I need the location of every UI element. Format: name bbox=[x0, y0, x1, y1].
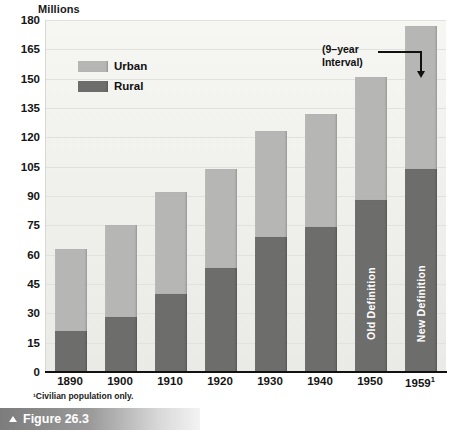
y-axis-tick-75: 75 bbox=[6, 219, 40, 231]
legend-item-urban: Urban bbox=[78, 58, 183, 74]
bar-1940[interactable] bbox=[305, 114, 337, 372]
y-axis-tick-105: 105 bbox=[6, 161, 40, 173]
x-axis-tick-1910: 1910 bbox=[157, 375, 183, 387]
interval-annotation-line1: (9–year bbox=[322, 43, 392, 56]
x-axis-tick-labels: 189019001910192019301940195019591 bbox=[45, 375, 445, 391]
annotation-arrow-stem bbox=[420, 51, 422, 73]
bar-segment-urban-1920[interactable] bbox=[205, 169, 237, 269]
bar-vertical-label-wrap-1959: New Definition bbox=[405, 244, 437, 364]
bar-segment-rural-1959[interactable]: New Definition bbox=[405, 169, 437, 372]
bar-segment-urban-1900[interactable] bbox=[105, 225, 137, 317]
legend-swatch-rural bbox=[78, 81, 108, 92]
annotation-leader-line bbox=[378, 51, 421, 53]
legend-item-rural: Rural bbox=[78, 78, 183, 94]
bar-1930[interactable] bbox=[255, 131, 287, 372]
y-axis-tick-90: 90 bbox=[6, 190, 40, 202]
x-axis-tick-1950: 1950 bbox=[357, 375, 383, 387]
bar-1900[interactable] bbox=[105, 225, 137, 372]
bar-segment-rural-1890[interactable] bbox=[55, 331, 87, 372]
x-axis-tick-superscript: 1 bbox=[431, 375, 435, 384]
figure-caption-text: Figure 26.3 bbox=[23, 412, 89, 426]
y-axis-tick-135: 135 bbox=[6, 102, 40, 114]
interval-annotation: (9–year Interval) bbox=[322, 43, 392, 69]
x-axis-tick-1930: 1930 bbox=[257, 375, 283, 387]
y-axis-tick-15: 15 bbox=[6, 337, 40, 349]
bar-segment-urban-1950[interactable] bbox=[355, 77, 387, 200]
y-axis-tick-165: 165 bbox=[6, 43, 40, 55]
bar-segment-urban-1959[interactable] bbox=[405, 26, 437, 169]
bar-1910[interactable] bbox=[155, 192, 187, 372]
bar-vertical-label-wrap-1950: Old Definition bbox=[355, 244, 387, 364]
bar-segment-rural-1920[interactable] bbox=[205, 268, 237, 372]
bar-segment-rural-1900[interactable] bbox=[105, 317, 137, 372]
y-axis-tick-150: 150 bbox=[6, 73, 40, 85]
interval-annotation-line2: Interval) bbox=[322, 56, 392, 69]
bar-segment-rural-1930[interactable] bbox=[255, 237, 287, 372]
caption-triangle-icon bbox=[9, 416, 17, 422]
y-axis-tick-120: 120 bbox=[6, 131, 40, 143]
y-axis-tick-45: 45 bbox=[6, 278, 40, 290]
y-axis-title: Millions bbox=[38, 3, 80, 15]
x-axis-tick-1890: 1890 bbox=[57, 375, 83, 387]
bar-vertical-label-1959: New Definition bbox=[415, 265, 427, 342]
x-axis-tick-1959: 19591 bbox=[405, 375, 435, 389]
x-axis-tick-1920: 1920 bbox=[207, 375, 233, 387]
y-axis-tick-180: 180 bbox=[6, 14, 40, 26]
annotation-arrow-head-icon bbox=[417, 71, 425, 78]
x-axis-line bbox=[45, 371, 447, 373]
bar-vertical-label-1950: Old Definition bbox=[365, 267, 377, 340]
bar-segment-urban-1890[interactable] bbox=[55, 249, 87, 331]
legend-swatch-urban bbox=[78, 61, 108, 72]
bar-segment-urban-1930[interactable] bbox=[255, 131, 287, 237]
y-axis-tick-60: 60 bbox=[6, 249, 40, 261]
legend-label-rural: Rural bbox=[114, 80, 143, 92]
bar-segment-urban-1910[interactable] bbox=[155, 192, 187, 294]
bar-1950[interactable]: Old Definition bbox=[355, 77, 387, 372]
y-axis-tick-labels: 0153045607590105120135150165180 bbox=[0, 20, 45, 372]
legend-label-urban: Urban bbox=[114, 60, 147, 72]
x-axis-tick-1900: 1900 bbox=[107, 375, 133, 387]
gridline bbox=[46, 20, 446, 21]
y-axis-tick-30: 30 bbox=[6, 307, 40, 319]
figure-caption-bar: Figure 26.3 bbox=[0, 408, 200, 430]
bar-1890[interactable] bbox=[55, 249, 87, 372]
bar-segment-urban-1940[interactable] bbox=[305, 114, 337, 227]
y-axis-tick-0: 0 bbox=[6, 366, 40, 378]
bar-segment-rural-1950[interactable]: Old Definition bbox=[355, 200, 387, 372]
x-axis-tick-1940: 1940 bbox=[307, 375, 333, 387]
chart-legend: Urban Rural bbox=[78, 58, 183, 98]
bar-segment-rural-1940[interactable] bbox=[305, 227, 337, 372]
chart-footnote: ¹Civilian population only. bbox=[33, 391, 133, 401]
bar-segment-rural-1910[interactable] bbox=[155, 294, 187, 372]
figure-26-3: Millions 0153045607590105120135150165180… bbox=[0, 0, 454, 436]
bar-1920[interactable] bbox=[205, 169, 237, 372]
